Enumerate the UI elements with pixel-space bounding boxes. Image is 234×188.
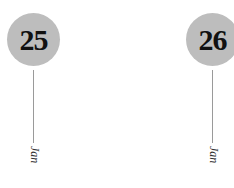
timeline-divider <box>212 70 213 143</box>
day-badge: 25 <box>7 13 60 66</box>
day-number: 25 <box>20 23 48 57</box>
timeline-divider <box>33 70 34 143</box>
month-label: Jan <box>205 146 221 172</box>
date-item[interactable]: 26 Jan <box>186 0 234 188</box>
date-item[interactable]: 25 Jan <box>7 0 63 188</box>
month-label: Jan <box>26 146 42 172</box>
day-number: 26 <box>199 23 227 57</box>
day-badge: 26 <box>186 13 234 66</box>
